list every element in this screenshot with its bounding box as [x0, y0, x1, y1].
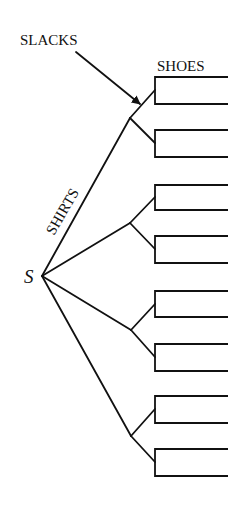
root-to-shirts-edges [42, 118, 131, 436]
shoes-bracket-1 [155, 77, 228, 104]
shirts-label: SHIRTS [43, 186, 82, 238]
shoes-bracket-6 [155, 344, 228, 371]
shoes-bracket-2 [155, 130, 228, 157]
slacks-label: SLACKS [20, 32, 78, 48]
shoes-bracket-5 [155, 291, 228, 317]
shoes-bracket-3 [155, 185, 228, 210]
root-label: S [24, 266, 34, 287]
shoes-bracket-8 [155, 449, 228, 476]
shoes-bracket-4 [155, 236, 228, 263]
shirts-branch-1 [42, 118, 130, 276]
slacks-branch-8 [131, 436, 155, 462]
shirts-branch-4 [42, 276, 131, 436]
shirts-to-slacks-edges [130, 90, 155, 462]
slacks-branch-7 [131, 409, 155, 436]
shoes-label: SHOES [157, 58, 205, 74]
shoes-leaf-brackets [155, 77, 228, 476]
slacks-branch-4 [130, 223, 155, 249]
tree-diagram: SLACKS SHOES SHIRTS S [0, 0, 245, 510]
slacks-branch-1 [130, 90, 155, 118]
shoes-bracket-7 [155, 396, 228, 423]
slacks-branch-2 [130, 118, 155, 143]
slacks-branch-3 [130, 197, 155, 223]
slacks-branch-6 [131, 330, 155, 357]
shirts-branch-3 [42, 276, 131, 330]
slacks-branch-5 [131, 304, 155, 330]
slacks-pointer-arrow [76, 52, 140, 104]
